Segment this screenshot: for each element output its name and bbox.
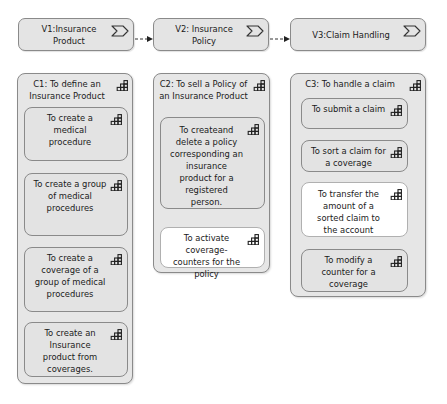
capability-grid-icon (390, 147, 402, 158)
sub-capability-label: To createand delete a policy correspondi… (170, 125, 243, 207)
sub-capability-highlighted[interactable]: To activate coverage-counters for the po… (160, 227, 265, 268)
value-stream-chevron-icon (246, 25, 264, 37)
capability-title: C1: To define an Insurance Product (22, 78, 112, 102)
value-stream-label: V2: Insurance Policy (164, 23, 244, 47)
sub-capability-label: To activate coverage-counters for the po… (173, 233, 240, 279)
capability-grid-icon (110, 254, 122, 265)
capability-c2[interactable]: C2: To sell a Policy of an Insurance Pro… (153, 73, 270, 273)
flow-arrow-v1-v2 (134, 34, 154, 44)
sub-capability[interactable]: To modify a counter for a coverage (301, 249, 408, 292)
capability-grid-icon (390, 105, 402, 116)
value-stream-label: V3:Claim Handling (312, 29, 390, 41)
sub-capability[interactable]: To create a coverage of a group of medic… (24, 247, 128, 312)
capability-grid-icon (247, 234, 259, 245)
capability-grid-icon (116, 80, 128, 91)
sub-capability-label: To create a medical procedure (47, 113, 93, 147)
value-stream-v2[interactable]: V2: Insurance Policy (153, 18, 269, 51)
capability-grid-icon (253, 80, 265, 91)
capability-grid-icon (110, 114, 122, 125)
capability-grid-icon (110, 180, 122, 191)
sub-capability-label: To create a coverage of a group of medic… (35, 253, 106, 299)
value-stream-v3[interactable]: V3:Claim Handling (290, 18, 426, 51)
value-stream-chevron-icon (403, 25, 421, 37)
capability-c1[interactable]: C1: To define an Insurance Product To cr… (17, 73, 133, 384)
sub-capability-highlighted[interactable]: To transfer the amount of a sorted claim… (301, 182, 408, 237)
sub-capability-label: To modify a counter for a coverage (321, 255, 375, 289)
capability-grid-icon (409, 80, 421, 91)
sub-capability-label: To transfer the amount of a sorted claim… (317, 189, 380, 235)
sub-capability-label: To create an Insurance product from cove… (43, 328, 97, 374)
sub-capability-label: To sort a claim for a coverage (311, 146, 386, 168)
sub-capability-label: To submit a claim (312, 104, 385, 114)
sub-capability[interactable]: To create a medical procedure (24, 107, 128, 161)
flow-arrow-v2-v3 (269, 34, 291, 44)
capability-grid-icon (390, 189, 402, 200)
sub-capability[interactable]: To create an Insurance product from cove… (24, 322, 128, 377)
capability-grid-icon (247, 124, 259, 135)
value-stream-label: V1:Insurance Product (29, 23, 109, 47)
sub-capability[interactable]: To sort a claim for a coverage (301, 140, 408, 172)
sub-capability[interactable]: To submit a claim (301, 98, 408, 129)
capability-title: C2: To sell a Policy of an Insurance Pro… (158, 78, 249, 102)
sub-capability-label: To create a group of medical procedures (34, 179, 107, 213)
capability-title: C3: To handle a claim (295, 78, 405, 90)
capability-c3[interactable]: C3: To handle a claim To submit a claim … (290, 73, 426, 297)
capability-grid-icon (110, 329, 122, 340)
value-stream-v1[interactable]: V1:Insurance Product (18, 18, 134, 51)
value-stream-chevron-icon (111, 25, 129, 37)
sub-capability[interactable]: To create a group of medical procedures (24, 173, 128, 236)
sub-capability[interactable]: To createand delete a policy correspondi… (160, 117, 265, 209)
capability-grid-icon (390, 256, 402, 267)
